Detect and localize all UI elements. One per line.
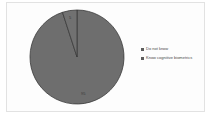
- legend-item-label: Do not know: [146, 47, 168, 51]
- legend-item-know-cognitive-biometrics[interactable]: Know cognitive biometrics: [141, 56, 205, 60]
- pie-slice-label-large: 95: [81, 92, 85, 96]
- legend-swatch-icon: [141, 48, 144, 51]
- chart-legend: Do not know Know cognitive biometrics: [141, 47, 205, 66]
- pie-slice-label-small: 5: [69, 16, 71, 20]
- pie-chart[interactable]: [27, 7, 127, 107]
- legend-item-do-not-know[interactable]: Do not know: [141, 47, 205, 51]
- legend-swatch-icon: [141, 57, 144, 60]
- legend-item-label: Know cognitive biometrics: [146, 56, 192, 60]
- chart-frame: 5 95 Do not know Know cognitive biometri…: [6, 2, 205, 112]
- plot-area: 5 95 Do not know Know cognitive biometri…: [7, 3, 204, 111]
